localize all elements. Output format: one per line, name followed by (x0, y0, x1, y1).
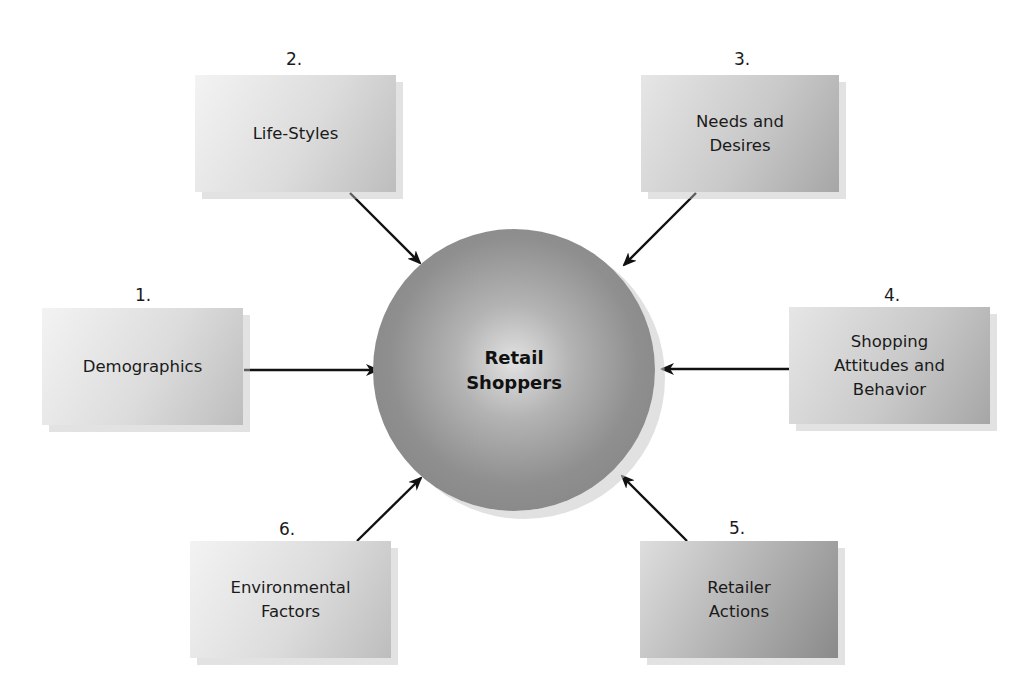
factor-label: Environmental Factors (230, 576, 350, 624)
factor-number-6: 6. (257, 521, 317, 538)
arrow-life-styles (350, 193, 420, 263)
factor-box-retailer-actions: Retailer Actions (640, 541, 838, 658)
arrow-environmental-factors (357, 478, 421, 541)
factor-box-demographics: Demographics (42, 308, 243, 425)
factor-box-environmental-factors: Environmental Factors (190, 541, 391, 658)
arrow-retailer-actions (622, 476, 687, 541)
factor-label: Demographics (83, 355, 203, 379)
factor-number-2: 2. (264, 51, 324, 68)
factor-label: Retailer Actions (707, 576, 771, 624)
factor-label: Life-Styles (253, 122, 339, 146)
factor-number-1: 1. (113, 287, 173, 304)
factor-label: Needs and Desires (696, 110, 784, 158)
factor-box-needs-desires: Needs and Desires (641, 75, 839, 192)
factor-label: Shopping Attitudes and Behavior (834, 330, 945, 402)
factor-box-life-styles: Life-Styles (195, 75, 396, 192)
center-node-label: Retail Shoppers (466, 345, 562, 395)
factor-number-4: 4. (862, 287, 922, 304)
factor-number-5: 5. (707, 520, 767, 537)
arrow-needs-desires (624, 193, 696, 265)
center-node-retail-shoppers: Retail Shoppers (373, 229, 655, 511)
factor-box-shopping-attitudes: Shopping Attitudes and Behavior (789, 307, 990, 424)
factor-number-3: 3. (712, 51, 772, 68)
